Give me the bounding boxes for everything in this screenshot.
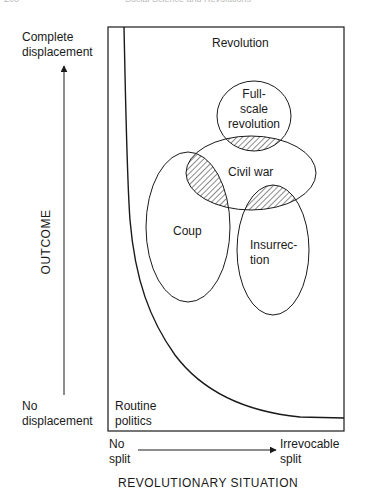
region-label-routine: Routine — [115, 399, 156, 413]
label-full-scale-2: scale — [224, 102, 284, 116]
y-top-label-2: displacement — [22, 45, 93, 59]
x-right-label-1: Irrevocable — [280, 437, 339, 451]
x-axis-title: REVOLUTIONARY SITUATION — [118, 476, 298, 490]
x-left-label-1: No — [109, 437, 124, 451]
label-full-scale-1: Full- — [224, 87, 284, 101]
boundary-curve — [124, 27, 344, 418]
y-top-label-1: Complete — [22, 30, 73, 44]
y-axis-title: OUTCOME — [39, 202, 53, 282]
region-label-revolution: Revolution — [212, 36, 269, 50]
y-bottom-label-1: No — [22, 399, 37, 413]
x-left-label-2: split — [109, 452, 130, 466]
label-coup: Coup — [173, 224, 202, 238]
y-bottom-label-2: displacement — [22, 414, 93, 428]
region-label-politics: politics — [115, 414, 152, 428]
label-civil-war: Civil war — [228, 165, 273, 179]
label-full-scale-3: revolution — [218, 117, 290, 131]
x-right-label-2: split — [280, 452, 301, 466]
label-insurrection-1: Insurrec- — [250, 238, 297, 252]
label-insurrection-2: tion — [250, 253, 269, 267]
